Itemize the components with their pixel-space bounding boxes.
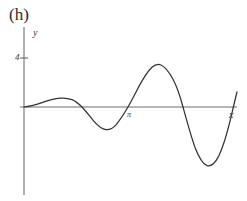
x-axis-label: x [229, 110, 233, 120]
y-axis-tick-label-4: 4 [15, 53, 20, 62]
y-axis-label: y [33, 28, 37, 38]
figure-container: (h) y x 4 π [0, 0, 247, 201]
x-axis-tick-label-pi: π [127, 111, 131, 119]
